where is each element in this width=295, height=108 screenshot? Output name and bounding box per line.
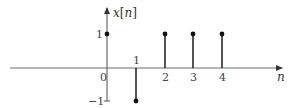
stem-n0 — [105, 32, 110, 37]
x-tick-label-2: 2 — [162, 71, 169, 84]
x-tick-label-0: 0 — [100, 71, 107, 84]
stem-plot: x[n] n 1 −1 0 1 2 3 4 — [0, 0, 295, 108]
stem-n2 — [163, 32, 168, 68]
marker-n4 — [220, 32, 225, 37]
marker-n0 — [105, 32, 110, 37]
marker-n2 — [163, 32, 168, 37]
x-tick-label-3: 3 — [190, 71, 197, 84]
marker-n3 — [191, 32, 196, 37]
stem-n1 — [134, 68, 139, 103]
x-tick-label-1: 1 — [133, 54, 140, 67]
stem-n4 — [220, 32, 225, 68]
y-axis-label: x[n] — [113, 6, 137, 20]
y-tick-label-neg-one: −1 — [88, 95, 104, 108]
marker-n1 — [134, 99, 139, 104]
x-tick-label-4: 4 — [219, 71, 226, 84]
stem-n3 — [191, 32, 196, 68]
x-axis-label: n — [277, 70, 285, 84]
y-tick-label-pos-one: 1 — [96, 28, 103, 41]
